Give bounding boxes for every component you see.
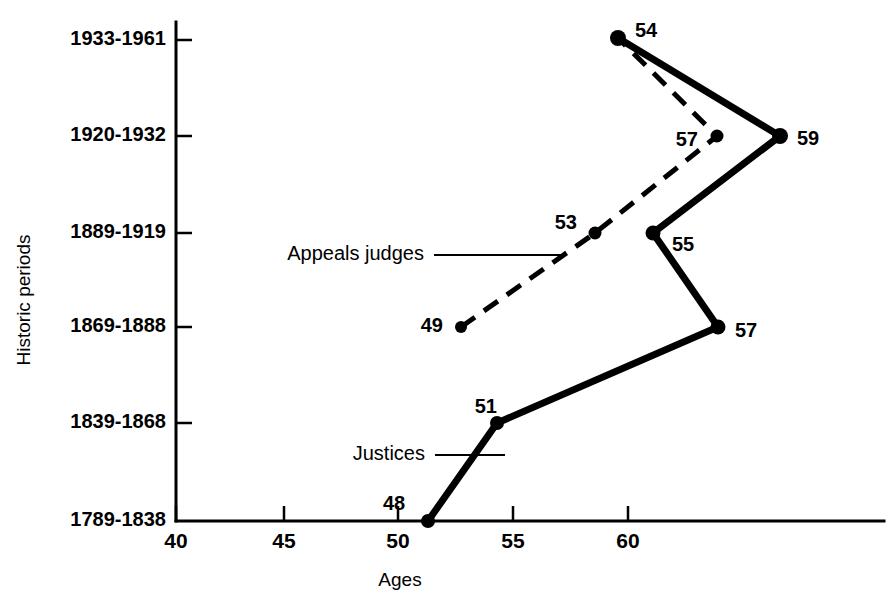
data-point-justices-1889-1919 — [646, 226, 661, 241]
series-line-appeals-judges — [461, 38, 717, 327]
x-tick-label-50: 50 — [386, 529, 409, 552]
value-label-justices-1920-1932: 59 — [797, 127, 819, 149]
x-axis-title: Ages — [378, 569, 421, 590]
x-tick-label-40: 40 — [164, 529, 187, 552]
value-label-justices-1789-1838: 48 — [383, 492, 405, 514]
y-tick-label-1839-1868: 1839-1868 — [70, 410, 166, 432]
data-point-justices-1789-1838 — [421, 514, 435, 528]
series-annotation-justices: Justices — [353, 442, 425, 464]
value-label-appeals-judges-1920-1932: 57 — [676, 128, 698, 150]
value-label-justices-1839-1868: 51 — [475, 395, 497, 417]
x-tick-label-55: 55 — [501, 529, 525, 552]
value-label-justices-1869-1888: 57 — [735, 319, 757, 341]
value-label-appeals-judges-1889-1919: 53 — [555, 211, 577, 233]
data-point-appeals-judges-1889-1919 — [589, 227, 602, 240]
series-line-justices — [428, 38, 780, 521]
x-tick-label-45: 45 — [272, 529, 296, 552]
series-annotation-appeals-judges: Appeals judges — [287, 242, 424, 264]
y-tick-label-1889-1919: 1889-1919 — [70, 220, 166, 242]
y-tick-label-1920-1932: 1920-1932 — [70, 123, 166, 145]
value-label-justices-1889-1919: 55 — [672, 233, 694, 255]
value-label-appeals-judges-1869-1888: 49 — [421, 314, 443, 336]
y-tick-label-1869-1888: 1869-1888 — [70, 314, 166, 336]
y-tick-label-1789-1838: 1789-1838 — [70, 508, 166, 530]
y-axis-ticks — [176, 40, 192, 423]
y-axis-title: Historic periods — [13, 235, 34, 366]
data-point-appeals-judges-1869-1888 — [455, 321, 467, 333]
data-point-justices-1869-1888 — [711, 320, 726, 335]
data-point-justices-1920-1932 — [772, 128, 788, 144]
line-chart: 1933-1961 1920-1932 1889-1919 1869-1888 … — [0, 0, 893, 615]
y-tick-label-1933-1961: 1933-1961 — [70, 27, 166, 49]
x-tick-label-60: 60 — [616, 529, 639, 552]
data-point-appeals-judges-1920-1932 — [711, 130, 724, 143]
data-point-justices-1933-1961 — [610, 30, 626, 46]
data-point-justices-1839-1868 — [490, 416, 504, 430]
value-label-justices-1933-1961: 54 — [635, 19, 658, 41]
chart-figure: 1933-1961 1920-1932 1889-1919 1869-1888 … — [0, 0, 893, 615]
